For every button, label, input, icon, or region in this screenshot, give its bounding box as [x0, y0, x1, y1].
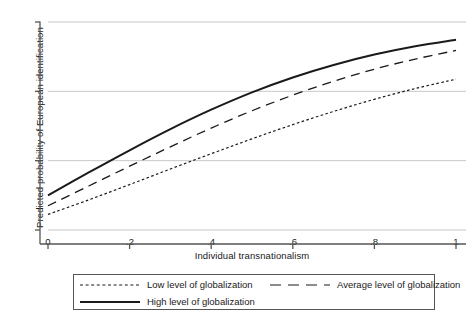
legend-swatch-dotted-icon [80, 280, 140, 290]
legend-row-1: Low level of globalization Average level… [74, 276, 434, 293]
legend-row-2: High level of globalization [74, 293, 434, 310]
series-line-solid [48, 40, 456, 196]
legend-label-average: Average level of globalization [337, 279, 460, 290]
legend-entry-low: Low level of globalization [80, 279, 253, 290]
plot-area [0, 0, 466, 319]
series-line-dotted [48, 79, 456, 214]
series-lines [48, 40, 456, 215]
legend-swatch-dashed-icon [270, 280, 330, 290]
tick-marks [35, 22, 456, 249]
gridlines [48, 22, 466, 230]
axis-lines [40, 22, 466, 245]
legend: Low level of globalization Average level… [73, 274, 435, 310]
legend-entry-average: Average level of globalization [270, 279, 460, 290]
legend-label-low: Low level of globalization [147, 279, 253, 290]
legend-swatch-solid-icon [80, 297, 140, 307]
legend-label-high: High level of globalization [147, 296, 255, 307]
chart-container: Predicted probability of European identi… [0, 0, 466, 319]
legend-entry-high: High level of globalization [80, 296, 255, 307]
series-line-dashed [48, 50, 456, 205]
